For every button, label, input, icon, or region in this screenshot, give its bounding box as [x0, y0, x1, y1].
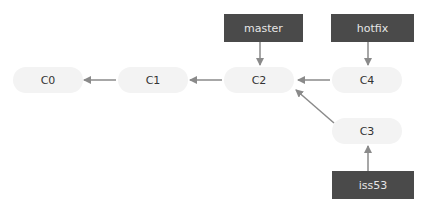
commit-c2: C2 [224, 67, 294, 93]
commit-c0: C0 [13, 67, 83, 93]
branch-master: master [224, 14, 303, 42]
commit-c4: C4 [332, 67, 402, 93]
arrow-c3-to-c2 [296, 90, 334, 123]
commit-c1: C1 [118, 67, 188, 93]
branch-iss53: iss53 [332, 171, 414, 199]
commit-c3: C3 [332, 118, 402, 144]
branch-hotfix: hotfix [331, 14, 414, 42]
